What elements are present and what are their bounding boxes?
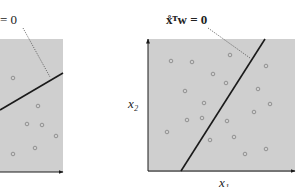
right-boundary-label: x̊ᵀw = 0 (166, 12, 207, 27)
x2-axis-label: x₂ (127, 96, 139, 111)
right-region (148, 39, 295, 172)
right-panel: x̊ᵀw = 0 x₁ x₂ (127, 12, 295, 187)
left-region (0, 39, 63, 172)
left-panel: = 0 (0, 12, 63, 172)
diagram-canvas: = 0 x̊ᵀw = 0 x₁ x₂ (0, 0, 302, 187)
x1-axis-label: x₁ (218, 175, 229, 187)
left-boundary-label: = 0 (0, 12, 17, 27)
